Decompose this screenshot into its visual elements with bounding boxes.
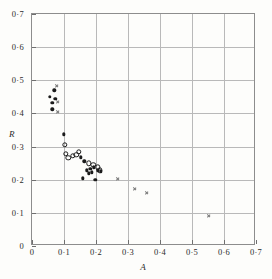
y-gridline — [32, 80, 254, 81]
data-point-filled-circles — [50, 101, 53, 104]
y-tick-label: 0·1 — [12, 208, 24, 218]
scatter-chart-figure: 00·10·20·30·40·50·60·700·10·20·30·40·50·… — [0, 0, 272, 279]
x-tickmark — [32, 240, 33, 244]
y-tickmark — [32, 180, 36, 181]
y-tickmark — [32, 147, 36, 148]
y-gridline — [32, 47, 254, 48]
data-point-cross-marks — [133, 186, 137, 190]
x-tick-label: 0·1 — [58, 247, 70, 257]
data-point-open-circles — [97, 168, 102, 173]
x-tick-label: 0·7 — [250, 247, 262, 257]
x-tickmark — [96, 240, 97, 244]
x-tickmark — [256, 240, 257, 244]
x-tick-label: 0·5 — [186, 247, 198, 257]
data-point-cross-marks — [116, 177, 120, 181]
data-point-filled-circles — [79, 155, 82, 158]
data-point-filled-circles — [62, 133, 65, 136]
x-tickmark — [128, 240, 129, 244]
x-gridline — [224, 14, 225, 244]
data-point-cross-marks — [56, 110, 60, 114]
data-point-filled-circles — [53, 89, 56, 92]
y-tick-label: 0 — [19, 241, 24, 251]
x-tick-label: 0 — [30, 247, 35, 257]
x-tickmark — [192, 240, 193, 244]
data-point-filled-circles — [90, 171, 93, 174]
y-tickmark — [32, 14, 36, 15]
plot-area: 00·10·20·30·40·50·60·700·10·20·30·40·50·… — [31, 13, 255, 245]
data-point-filled-circles — [51, 108, 54, 111]
y-gridline — [32, 113, 254, 114]
x-tickmark — [224, 240, 225, 244]
y-gridline — [32, 180, 254, 181]
data-point-cross-marks — [55, 84, 59, 88]
x-tick-label: 0·2 — [90, 247, 102, 257]
x-gridline — [64, 14, 65, 244]
x-axis-label: A — [140, 262, 146, 272]
y-gridline — [32, 213, 254, 214]
y-tickmark — [32, 246, 36, 247]
y-tick-label: 0·3 — [12, 142, 24, 152]
x-tickmark — [160, 240, 161, 244]
data-point-filled-circles — [48, 95, 51, 98]
data-point-cross-marks — [56, 99, 60, 103]
y-tick-label: 0·4 — [12, 108, 24, 118]
data-point-cross-marks — [144, 190, 148, 194]
x-tickmark — [64, 240, 65, 244]
y-axis-label: R — [9, 129, 15, 139]
y-tick-label: 0·6 — [12, 42, 24, 52]
x-gridline — [192, 14, 193, 244]
y-tickmark — [32, 47, 36, 48]
x-gridline — [160, 14, 161, 244]
y-tickmark — [32, 213, 36, 214]
x-tick-label: 0·3 — [122, 247, 134, 257]
y-tickmark — [32, 113, 36, 114]
y-tick-label: 0·2 — [12, 175, 24, 185]
x-tick-label: 0·6 — [218, 247, 230, 257]
y-tick-label: 0·5 — [12, 75, 24, 85]
x-gridline — [128, 14, 129, 244]
data-point-cross-marks — [206, 214, 210, 218]
x-tick-label: 0·4 — [154, 247, 166, 257]
y-tickmark — [32, 80, 36, 81]
y-tick-label: 0·7 — [12, 9, 24, 19]
x-gridline — [96, 14, 97, 244]
data-point-open-circles — [76, 149, 81, 154]
